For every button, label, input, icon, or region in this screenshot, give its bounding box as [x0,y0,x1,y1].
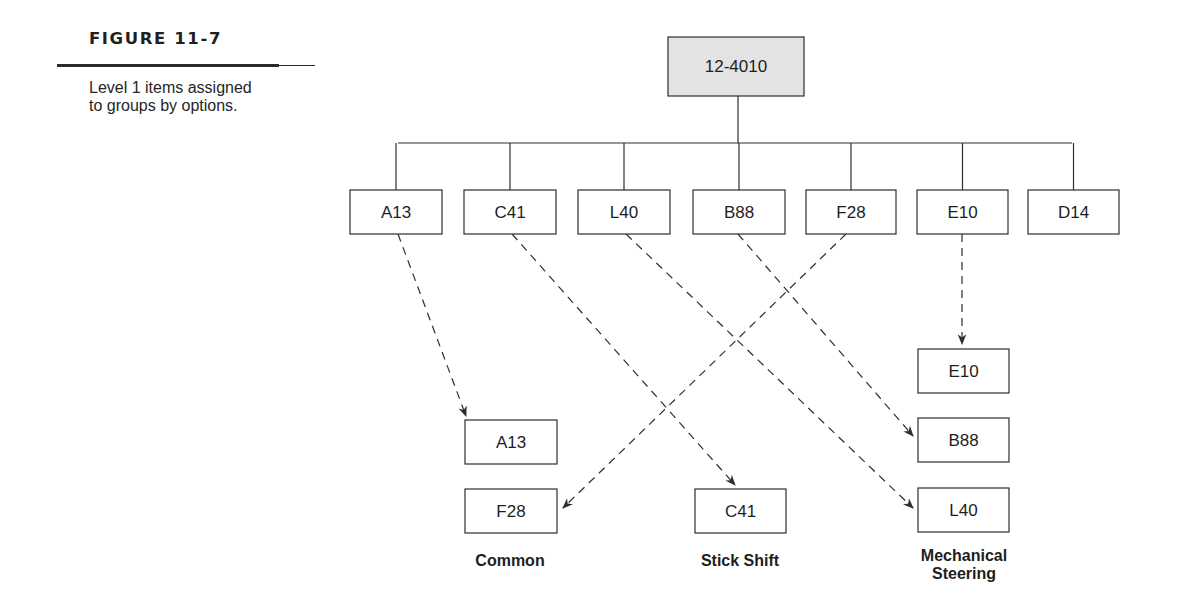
level1-item-c41: C41 [464,190,556,234]
box-label: C41 [494,203,525,222]
box-label: D14 [1058,203,1089,222]
mechanical-steering-item-e10: E10 [918,349,1009,393]
box-label: A13 [381,203,411,222]
group-label-stick-shift: Stick Shift [701,552,780,569]
level1-item-l40: L40 [578,190,670,234]
bill-of-materials-diagram: 12-4010A13C41L40B88F28E10D14A13F28C41E10… [0,0,1181,616]
mechanical-steering-item-l40: L40 [918,488,1009,532]
box-label: B88 [948,431,978,450]
box-label: E10 [947,203,977,222]
common-item-a13: A13 [465,420,557,464]
box-label: A13 [496,433,526,452]
arrow-a13-to-group [398,234,466,416]
level1-item-b88: B88 [693,190,785,234]
box-label: F28 [496,502,525,521]
level1-item-d14: D14 [1028,190,1119,234]
arrow-l40-to-group [626,234,913,508]
group-label-common: Common [475,552,544,569]
assignment-arrows [398,234,962,508]
group-label-mechanical-steering: MechanicalSteering [921,547,1007,582]
arrow-f28-to-group [563,234,846,508]
box-label: E10 [948,362,978,381]
box-label: F28 [836,203,865,222]
box-label: L40 [610,203,638,222]
tree-nodes: 12-4010A13C41L40B88F28E10D14A13F28C41E10… [350,37,1119,533]
box-label: C41 [725,502,756,521]
level1-item-e10: E10 [917,190,1008,234]
box-label: B88 [724,203,754,222]
mechanical-steering-item-b88: B88 [918,418,1009,462]
group-labels: CommonStick ShiftMechanicalSteering [475,547,1007,582]
stick-shift-item-c41: C41 [695,489,786,533]
root-item-box: 12-4010 [668,37,804,96]
arrow-b88-to-group [738,234,913,436]
box-label: L40 [949,501,977,520]
level1-item-f28: F28 [806,190,896,234]
tree-connectors [396,96,1074,190]
box-label: 12-4010 [705,57,767,76]
level1-item-a13: A13 [350,190,442,234]
common-item-f28: F28 [465,489,557,533]
